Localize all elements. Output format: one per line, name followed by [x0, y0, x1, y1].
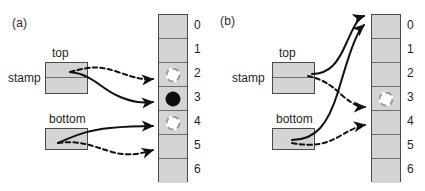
panel-b-index-5: 5 — [407, 138, 414, 152]
panel-b-index-6: 6 — [407, 162, 414, 176]
panel-a-label: (a) — [12, 16, 27, 30]
panel-a-stamp-top-half — [46, 63, 87, 78]
panel-a-cell-1 — [159, 39, 187, 63]
panel-b-cell-3 — [372, 87, 400, 111]
panel-a-bottom-box — [45, 128, 88, 150]
panel-a-token-open-2 — [166, 67, 181, 82]
panel-a-stamp-label: stamp — [8, 71, 41, 85]
panel-b-bottom-box — [272, 128, 315, 150]
panel-b-index-2: 2 — [407, 66, 414, 80]
panel-a-top-label: top — [52, 46, 69, 60]
panel-a-cell-5 — [159, 135, 187, 159]
panel-b-arrow-top-to-0 — [312, 16, 364, 74]
panel-b-index-4: 4 — [407, 114, 414, 128]
panel-a-index-4: 4 — [194, 114, 201, 128]
panel-a-index-5: 5 — [194, 138, 201, 152]
panel-a-token-filled-3 — [166, 91, 181, 106]
figure-root: (a) top stamp bottom 0 — [0, 0, 425, 191]
panel-a-memory-column — [158, 14, 188, 182]
panel-b-cell-1 — [372, 39, 400, 63]
panel-a-bottom-label: bottom — [49, 112, 86, 126]
panel-a-token-open-4 — [166, 115, 181, 130]
panel-a-cell-6 — [159, 159, 187, 183]
panel-b-top-label: top — [279, 46, 296, 60]
panel-a-index-2: 2 — [194, 66, 201, 80]
panel-b-cell-5 — [372, 135, 400, 159]
panel-a-cell-2 — [159, 63, 187, 87]
panel-b-cell-6 — [372, 159, 400, 183]
panel-a-index-0: 0 — [194, 18, 201, 32]
panel-b-cell-2 — [372, 63, 400, 87]
panel-b-cell-4 — [372, 111, 400, 135]
panel-b-index-3: 3 — [407, 90, 414, 104]
panel-a-stamp-bottom-half — [46, 78, 87, 93]
panel-a-index-1: 1 — [194, 42, 201, 56]
panel-a-stamp-box — [45, 62, 88, 94]
panel-b-memory-column — [371, 14, 401, 182]
panel-b-cell-0 — [372, 15, 400, 39]
panel-b-stamp-label: stamp — [232, 71, 265, 85]
panel-b-index-0: 0 — [407, 18, 414, 32]
panel-b-stamp-bottom-half — [273, 78, 314, 93]
panel-a-index-6: 6 — [194, 162, 201, 176]
panel-b-label: (b) — [220, 14, 235, 28]
panel-a-cell-4 — [159, 111, 187, 135]
panel-b-stamp-top-half — [273, 63, 314, 78]
panel-b-stamp-box — [272, 62, 315, 94]
panel-b: (b) top stamp bottom 0 1 2 3 4 5 — [212, 0, 425, 191]
panel-b-token-open-3 — [379, 91, 394, 106]
panel-a-cell-0 — [159, 15, 187, 39]
panel-b-index-1: 1 — [407, 42, 414, 56]
panel-b-arrow-top-to-3 — [308, 76, 365, 107]
panel-a-cell-3 — [159, 87, 187, 111]
panel-a: (a) top stamp bottom 0 — [0, 0, 213, 191]
panel-a-index-3: 3 — [194, 90, 201, 104]
panel-b-bottom-label: bottom — [276, 112, 313, 126]
